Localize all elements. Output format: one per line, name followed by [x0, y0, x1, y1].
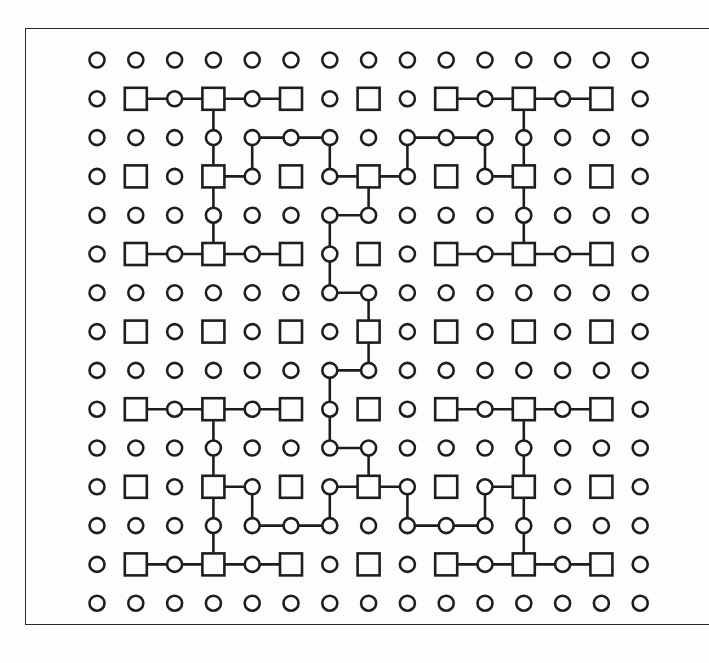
circle-node	[90, 518, 105, 533]
circle-node	[322, 441, 337, 456]
square-node	[435, 476, 457, 498]
circle-node	[555, 247, 570, 262]
circle-node	[478, 91, 493, 106]
square-node	[125, 398, 147, 420]
circle-node	[516, 441, 531, 456]
circle-node	[284, 208, 299, 223]
square-node	[435, 553, 457, 575]
circle-node	[400, 479, 415, 494]
circle-node	[400, 324, 415, 339]
square-node	[590, 553, 612, 575]
circle-node	[322, 324, 337, 339]
circle-node	[284, 441, 299, 456]
circle-node	[90, 247, 105, 262]
square-node	[202, 165, 224, 187]
circle-node	[245, 285, 260, 300]
circle-node	[439, 596, 454, 611]
square-node	[125, 243, 147, 265]
circle-node	[284, 363, 299, 378]
square-node	[590, 476, 612, 498]
circle-node	[633, 53, 648, 68]
circle-node	[284, 130, 299, 145]
circle-node	[167, 130, 182, 145]
circle-node	[439, 363, 454, 378]
circle-node	[284, 285, 299, 300]
circle-node	[90, 130, 105, 145]
circle-node	[633, 208, 648, 223]
circle-node	[594, 53, 609, 68]
circle-node	[245, 91, 260, 106]
square-node	[435, 165, 457, 187]
circle-node	[245, 518, 260, 533]
circle-node	[90, 363, 105, 378]
square-node	[280, 321, 302, 343]
circle-node	[633, 441, 648, 456]
circle-node	[206, 441, 221, 456]
square-node	[202, 553, 224, 575]
circle-node	[245, 363, 260, 378]
circle-node	[322, 208, 337, 223]
circle-node	[90, 169, 105, 184]
circle-node	[594, 596, 609, 611]
square-node	[125, 321, 147, 343]
square-node	[435, 243, 457, 265]
circle-node	[167, 557, 182, 572]
circle-node	[361, 596, 376, 611]
circle-node	[516, 130, 531, 145]
circle-node	[478, 324, 493, 339]
circle-node	[478, 518, 493, 533]
circle-node	[633, 324, 648, 339]
circle-node	[478, 53, 493, 68]
square-node	[435, 398, 457, 420]
circle-node	[245, 208, 260, 223]
circle-node	[322, 518, 337, 533]
square-node	[513, 476, 535, 498]
square-node	[513, 243, 535, 265]
circle-node	[555, 91, 570, 106]
circle-node	[206, 208, 221, 223]
square-node	[280, 88, 302, 110]
circle-node	[322, 91, 337, 106]
circle-node	[400, 557, 415, 572]
circle-node	[516, 596, 531, 611]
circle-node	[167, 518, 182, 533]
circle-node	[633, 402, 648, 417]
square-node	[358, 88, 380, 110]
square-node	[513, 165, 535, 187]
circle-node	[633, 479, 648, 494]
square-node	[280, 243, 302, 265]
circle-node	[555, 130, 570, 145]
circle-node	[128, 441, 143, 456]
circle-node	[555, 441, 570, 456]
circle-node	[167, 441, 182, 456]
circle-node	[90, 596, 105, 611]
circle-node	[322, 247, 337, 262]
circle-node	[167, 479, 182, 494]
circle-node	[245, 557, 260, 572]
circle-node	[322, 596, 337, 611]
square-node	[513, 321, 535, 343]
circle-node	[284, 518, 299, 533]
circle-node	[439, 130, 454, 145]
square-node	[280, 165, 302, 187]
circle-node	[361, 363, 376, 378]
square-node	[202, 476, 224, 498]
circle-node	[633, 596, 648, 611]
circle-node	[245, 596, 260, 611]
circle-node	[478, 441, 493, 456]
circle-node	[167, 53, 182, 68]
circle-node	[245, 130, 260, 145]
circle-node	[555, 53, 570, 68]
circle-node	[245, 53, 260, 68]
circle-node	[555, 402, 570, 417]
circle-node	[594, 130, 609, 145]
square-node	[125, 88, 147, 110]
circle-node	[322, 169, 337, 184]
square-node	[435, 321, 457, 343]
circle-node	[361, 518, 376, 533]
circle-node	[322, 479, 337, 494]
square-node	[280, 398, 302, 420]
square-node	[202, 398, 224, 420]
circle-node	[245, 441, 260, 456]
circle-node	[284, 596, 299, 611]
